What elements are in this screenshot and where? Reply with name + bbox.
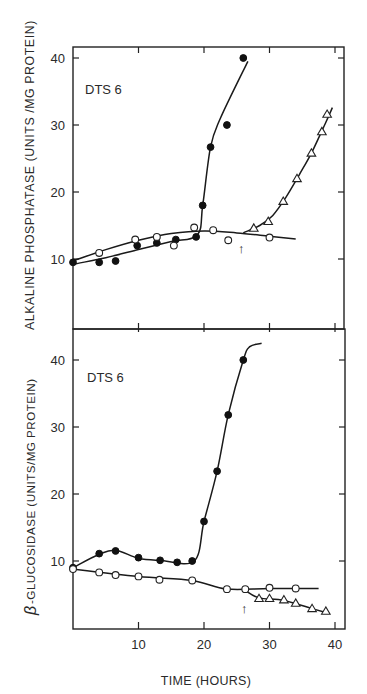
bottom-y-ticks: 10203040 (51, 353, 345, 569)
bottom-y-axis-label: β -GLUCOSIDASE (UNITS/MG PROTEIN) (22, 379, 39, 617)
y-tick-label: 40 (51, 51, 65, 66)
open-circle-marker (266, 584, 273, 591)
top-x-ticks (139, 47, 336, 332)
bottom-panel: 10203040 10203040 DTS 6 ↑ β -GLUCOSIDASE… (22, 329, 345, 688)
open-circle-marker (210, 227, 217, 234)
bottom-y-axis-label-text: -GLUCOSIDASE (UNITS/MG PROTEIN) (24, 379, 37, 605)
filled-circle-marker (199, 202, 206, 209)
filled-circle-marker (174, 559, 181, 566)
top-panel-label: DTS 6 (85, 82, 122, 97)
y-tick-label: 10 (51, 554, 65, 569)
open-triangle-marker (265, 594, 274, 601)
open-circle-marker (156, 576, 163, 583)
filled-circle-marker (189, 558, 196, 565)
filled-circle-marker (112, 548, 119, 555)
filled-circle-marker (214, 468, 221, 475)
open-circle-marker (292, 585, 299, 592)
filled-circle-marker (135, 554, 142, 561)
open-triangle-marker (322, 607, 331, 614)
filled-circle-marker (207, 144, 214, 151)
filled-circle-marker (224, 122, 231, 129)
open-triangle-marker (264, 217, 273, 224)
open-triangle-marker (307, 149, 316, 156)
y-tick-label: 20 (51, 185, 65, 200)
x-tick-label: 20 (197, 637, 211, 652)
filled-circle-marker (96, 550, 103, 557)
top-panel: 10203040 DTS 6 ↑ ALKALINE PHOSPHATASE (U… (23, 20, 344, 332)
filled-circle-marker (240, 55, 247, 62)
open-circle-marker (96, 250, 103, 257)
open-circle-marker (70, 566, 77, 573)
open-triangle-marker (293, 174, 302, 181)
x-tick-label: 10 (131, 637, 145, 652)
open-circle-marker (225, 237, 232, 244)
y-tick-label: 40 (51, 353, 65, 368)
filled-circle-marker (157, 557, 164, 564)
open-circle-marker (242, 586, 249, 593)
open-circle-marker (191, 224, 198, 231)
open-circle-marker (170, 242, 177, 249)
bottom-panel-label: DTS 6 (87, 370, 124, 385)
open-circle-marker (112, 572, 119, 579)
y-tick-label: 30 (51, 118, 65, 133)
open-circle-marker (224, 586, 231, 593)
beta-symbol: β (22, 606, 39, 616)
open-circle-marker (266, 234, 273, 241)
open-circle-marker (189, 577, 196, 584)
open-circles-curve (73, 231, 296, 261)
bottom-markers (70, 357, 331, 615)
filled-circle-marker (193, 233, 200, 240)
open-circle-marker (96, 569, 103, 576)
chart-figure: 10203040 DTS 6 ↑ ALKALINE PHOSPHATASE (U… (0, 0, 367, 694)
y-tick-label: 20 (51, 487, 65, 502)
filled-circle-marker (240, 357, 247, 364)
filled-circle-marker (201, 518, 208, 525)
top-arrow-icon: ↑ (238, 241, 245, 256)
x-tick-label: 40 (328, 637, 342, 652)
bottom-x-ticks: 10203040 (131, 622, 342, 652)
open-triangles-curve (243, 108, 332, 233)
y-tick-label: 10 (51, 252, 65, 267)
top-y-axis-label: ALKALINE PHOSPHATASE (UNITS /MG PROTEIN) (23, 20, 37, 330)
x-axis-label: TIME (HOURS) (161, 674, 251, 688)
bottom-arrow-icon: ↑ (241, 601, 248, 616)
filled-circle-marker (225, 412, 232, 419)
open-triangle-marker (280, 596, 289, 603)
open-triangle-marker (318, 127, 327, 134)
open-circle-marker (153, 233, 160, 240)
x-tick-label: 30 (262, 637, 276, 652)
filled-circle-marker (70, 259, 77, 266)
open-circle-marker (135, 573, 142, 580)
open-circle-marker (132, 236, 139, 243)
filled-circle-marker (112, 258, 119, 265)
y-tick-label: 30 (51, 420, 65, 435)
filled-circle-marker (96, 259, 103, 266)
